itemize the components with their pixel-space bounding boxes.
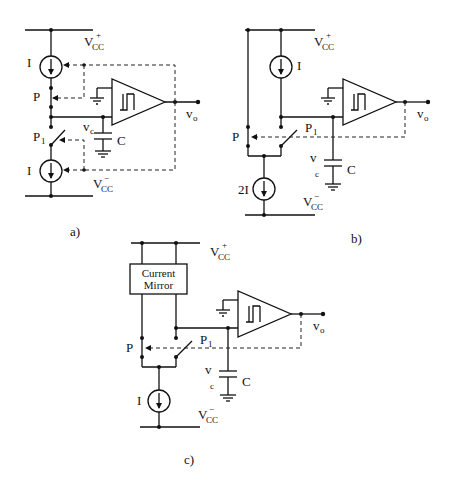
- switch-p1-label: P: [200, 332, 207, 347]
- current-source-top-icon: [40, 56, 62, 78]
- schmitt-comparator-icon: [216, 291, 291, 337]
- capacitor-icon: [94, 117, 112, 157]
- svg-text:CC: CC: [101, 184, 113, 194]
- svg-text:1: 1: [313, 127, 318, 137]
- current-source-bottom-icon: [253, 178, 275, 200]
- caption-c: c): [184, 452, 194, 467]
- panel-c: Current Mirror: [126, 240, 325, 467]
- vc-label: v: [83, 119, 90, 134]
- svg-text:−: −: [314, 191, 319, 201]
- current-source-bottom-icon: [148, 390, 170, 412]
- svg-text:+: +: [326, 30, 331, 40]
- capacitor-label: C: [347, 162, 356, 177]
- svg-text:−: −: [209, 404, 214, 414]
- svg-text:o: o: [193, 113, 198, 123]
- current-top-label: I: [297, 58, 301, 73]
- switch-p1-label: P: [33, 129, 40, 144]
- switch-p1-label: P: [305, 120, 312, 135]
- vo-label: v: [313, 318, 320, 333]
- svg-text:1: 1: [41, 136, 46, 146]
- caption-a: a): [70, 224, 80, 239]
- current-bottom-label: I: [27, 163, 31, 178]
- svg-text:CC: CC: [206, 415, 218, 425]
- switch-p-label: P: [232, 129, 239, 144]
- vc-label: v: [205, 362, 212, 377]
- capacitor-icon: [219, 328, 237, 401]
- capacitor-label: C: [242, 374, 251, 389]
- switch-p1: [51, 130, 65, 145]
- capacitor-label: C: [117, 133, 126, 148]
- current-mirror-label-line1: Current: [142, 267, 176, 279]
- svg-text:o: o: [424, 113, 429, 123]
- svg-text:o: o: [320, 325, 325, 335]
- svg-text:−: −: [104, 173, 109, 183]
- current-source-top-icon: [270, 56, 292, 78]
- svg-text:CC: CC: [311, 202, 323, 212]
- svg-text:CC: CC: [92, 42, 104, 52]
- switch-p-label: P: [126, 340, 133, 355]
- svg-text:c: c: [210, 381, 214, 391]
- current-top-label: I: [27, 55, 31, 70]
- svg-text:+: +: [96, 30, 101, 40]
- current-bottom-label: 2I: [238, 182, 249, 197]
- capacitor-icon: [324, 117, 342, 190]
- svg-text:1: 1: [208, 339, 213, 349]
- panel-a: V CC + I P P 1 v c C v o I V CC − a): [25, 28, 200, 239]
- caption-b: b): [351, 231, 362, 246]
- current-source-bottom-icon: [40, 160, 62, 182]
- switch-p1: [176, 341, 192, 357]
- svg-text:CC: CC: [322, 42, 334, 52]
- switch-p-label: P: [33, 89, 40, 104]
- svg-text:+: +: [222, 240, 227, 250]
- panel-b: V CC + I P P 1 v c C v o 2I V CC − b): [232, 28, 430, 246]
- circuit-figure: V CC + I P P 1 v c C v o I V CC − a): [0, 0, 450, 492]
- vo-label: v: [417, 106, 424, 121]
- svg-text:c: c: [90, 126, 94, 136]
- svg-text:c: c: [315, 169, 319, 179]
- current-bottom-label: I: [137, 393, 141, 408]
- schmitt-comparator-icon: [90, 79, 165, 125]
- svg-text:CC: CC: [218, 252, 230, 262]
- vo-label: v: [186, 106, 193, 121]
- vc-label: v: [310, 150, 317, 165]
- current-mirror-label-line2: Mirror: [144, 279, 174, 291]
- switch-p1: [281, 130, 297, 146]
